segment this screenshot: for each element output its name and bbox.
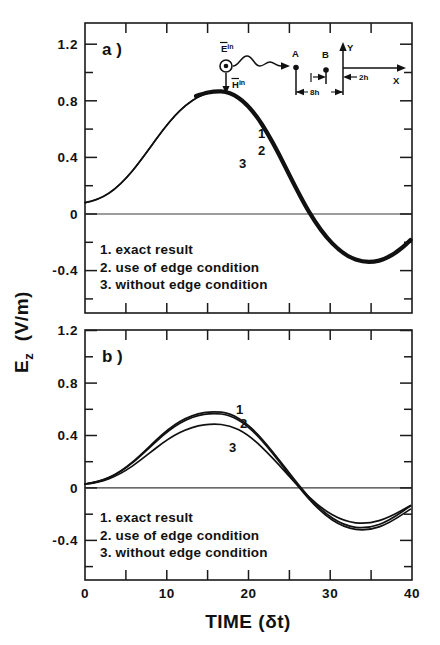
panel-a-tag-3: 3 [239,156,246,171]
inset-h-sup: in [239,79,245,86]
inset-e-sup: in [227,43,233,50]
inset-geometry-diagram: Ein Hin [220,42,406,98]
panel-b-tag-2: 2 [240,416,247,431]
panel-a-ytick-1: 0.8 [57,94,78,109]
panel-a-ytick-0: 1.2 [57,37,78,52]
panel-a-tag-2: 2 [258,143,265,158]
panel-a-legend-item-1: 1. exact result [100,242,193,257]
point-a-label: A [292,48,299,59]
inset-e-field-label: Ein [220,43,234,55]
panel-b-ytick-0: 1.2 [57,323,78,338]
panel-a-ytick-4: -0.4 [52,263,78,278]
inset-dim-8h: 8h [296,87,343,98]
panel-b-xtick-4: 40 [404,586,420,601]
panel-b-xtick-3: 30 [322,586,338,601]
panel-b-ytick-2: 0.4 [57,428,78,443]
inset-dim-2h: 2h [343,73,368,82]
panel-b-curve-3 [85,424,411,523]
panel-b-ytick-4: -0.4 [52,533,78,548]
panel-a-curve-tags: 1 2 3 [239,126,265,171]
panel-b-legend-item-1: 1. exact result [100,510,193,525]
panel-b-legend-item-3: 3. without edge condition [100,545,268,560]
panel-b-xtick-2: 20 [240,586,256,601]
inset-dim-small [311,73,326,82]
panel-a-label: a ) [102,40,122,59]
panel-b-x-ticks [126,330,371,580]
panel-b: 1.2 0.8 0.4 0 -0.4 0 10 20 30 40 b ) [52,323,420,601]
e-field-out-of-page-icon [220,60,232,72]
panel-a-curve-3 [85,91,411,262]
svg-text:Ez (V/m): Ez (V/m) [11,291,36,373]
panel-b-ytick-1: 0.8 [57,376,78,391]
y-axis-title: Ez (V/m) [11,291,36,373]
svg-text:Hin: Hin [232,79,245,91]
panel-b-xtick-1: 10 [159,586,175,601]
inset-x-axis-label: X [393,75,400,86]
y-axis-title-main: E [11,360,32,373]
panel-a-curve-1 [196,91,411,262]
panel-b-tag-1: 1 [236,402,243,417]
panel-b-tag-3: 3 [229,440,236,455]
svg-text:Ein: Ein [221,43,234,55]
panel-b-legend-item-2: 2. use of edge condition [100,528,259,543]
x-axis-title: TIME (δt) [205,611,291,632]
inset-y-axis: Y [339,42,354,68]
point-b-marker [323,67,329,73]
panel-a-legend-item-3: 3. without edge condition [100,277,268,292]
panel-b-x-tick-labels: 0 10 20 30 40 [81,586,420,601]
panel-b-legend: 1. exact result 2. use of edge condition… [100,510,268,560]
panel-b-curve-tags: 1 2 3 [229,402,247,455]
panel-a-y-tick-labels: 1.2 0.8 0.4 0 -0.4 [52,37,78,278]
y-axis-title-sub: z [21,353,36,360]
figure-container: Ez (V/m) [0,0,440,645]
panel-a-curves [85,91,411,262]
inset-y-axis-label: Y [347,42,354,53]
panel-a-curve-2 [85,91,411,262]
panel-b-xtick-0: 0 [81,586,89,601]
point-b-label: B [322,49,329,60]
panel-a-legend: 1. exact result 2. use of edge condition… [100,242,268,292]
panel-a-legend-item-2: 2. use of edge condition [100,260,259,275]
y-axis-title-unit: (V/m) [11,291,32,341]
panel-b-ytick-3: 0 [70,481,78,496]
panel-b-frame [85,330,412,580]
panel-a-tag-1: 1 [258,126,265,141]
panel-a-ytick-3: 0 [70,207,78,222]
panel-a-ytick-2: 0.4 [57,150,78,165]
point-a-marker [293,65,299,71]
panel-b-label: b ) [102,347,123,366]
incident-wave-icon [233,56,290,70]
inset-h-field-label: Hin [232,79,246,91]
inset-dim-8h-label: 8h [310,88,319,97]
panel-a: 1.2 0.8 0.4 0 -0.4 a ) 1 2 3 [52,23,412,313]
inset-dim-2h-label: 2h [359,73,368,82]
panel-b-y-tick-labels: 1.2 0.8 0.4 0 -0.4 [52,323,78,548]
